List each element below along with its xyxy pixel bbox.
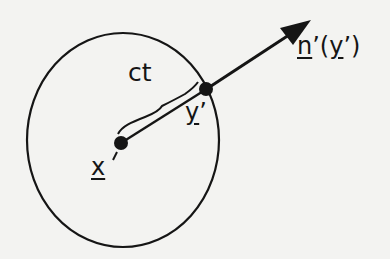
x-tick xyxy=(113,152,117,160)
y-prime-label: y’ xyxy=(185,100,207,124)
y-prime-mark: ’ xyxy=(199,98,207,126)
surface-point-y xyxy=(199,82,213,96)
ct-label: ct xyxy=(128,60,152,85)
open-paren: ( xyxy=(320,32,329,60)
ct-text: ct xyxy=(128,58,152,87)
wavefront-diagram: ct y’ x n’(y’) xyxy=(0,0,390,259)
n-arg-y: y xyxy=(329,32,343,60)
y-symbol: y xyxy=(185,98,199,126)
x-symbol: x xyxy=(91,153,105,181)
n-prime-mark: ’ xyxy=(312,32,320,60)
normal-arrow-shaft xyxy=(205,33,292,90)
n-symbol: n xyxy=(297,32,312,60)
x-prime-label: x xyxy=(91,155,105,179)
n-arg-prime-mark: ’ xyxy=(343,32,351,60)
center-point-x xyxy=(114,136,128,150)
normal-label: n’(y’) xyxy=(297,34,360,58)
close-paren: ) xyxy=(351,32,360,60)
